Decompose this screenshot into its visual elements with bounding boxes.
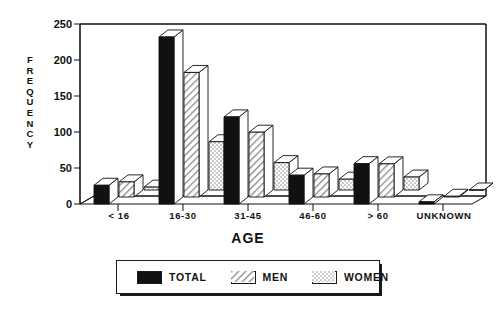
bar-men-4-front [379,164,394,197]
bar-women-5-top [469,183,493,190]
bar-men-1-front [184,72,199,197]
legend-swatch-men [231,271,256,284]
diagonal-hatch-icon [231,271,254,282]
legend-item-total: TOTAL [137,271,207,284]
bar-total-5-front [419,202,434,204]
bar-men-2-front [249,132,264,197]
x-axis-title: AGE [0,230,496,246]
legend-label-men: MEN [263,271,288,283]
x-tick-label-1: 16-30 [152,210,214,221]
bar-total-4-side [369,157,378,204]
stipple-dots-icon [312,271,335,282]
x-tick-label-0: < 16 [88,210,150,221]
legend-swatch-total [137,271,162,284]
x-tick-label-3: 46-60 [282,210,344,221]
bar-women-1-front [209,142,224,190]
bar-total-1-side [174,30,183,204]
legend: TOTAL MEN WOMEN [116,260,380,294]
bar-women-3-front [339,179,354,190]
bar-total-4-front [354,164,369,204]
bar-men-2-side [264,125,273,197]
bar-total-1-front [159,37,174,204]
legend-item-men: MEN [231,271,288,284]
bar-men-3-front [314,174,329,197]
bar-men-5-front [444,196,459,197]
x-tick-label-5: UNKNOWN [408,210,480,221]
x-tick-label-2: 31-45 [217,210,279,221]
bar-men-0-front [119,182,134,197]
bar-total-0-front [94,185,109,204]
legend-label-women: WOMEN [344,271,389,283]
bar-women-2-front [274,163,289,190]
bar-women-4-front [404,177,419,190]
bar-total-3-front [289,175,304,204]
x-tick-label-4: > 60 [347,210,409,221]
legend-swatch-women [312,271,337,284]
legend-item-women: WOMEN [312,271,389,284]
bar-women-0-front [144,187,159,190]
bar-total-2-side [239,110,248,204]
legend-label-total: TOTAL [169,271,207,283]
chart-canvas: F R E Q U E N C Y 250 200 150 100 50 0 [0,0,496,315]
bar-men-1-side [199,65,208,197]
bar-total-2-front [224,117,239,204]
